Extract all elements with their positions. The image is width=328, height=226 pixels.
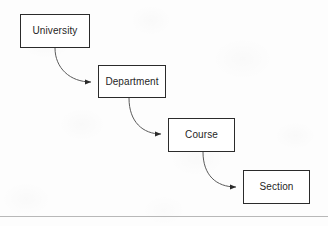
node-department[interactable]: Department xyxy=(98,65,166,98)
edge-university-department xyxy=(55,48,91,82)
node-course-label: Course xyxy=(185,130,218,140)
node-section[interactable]: Section xyxy=(243,170,310,204)
node-section-label: Section xyxy=(259,182,293,192)
node-course[interactable]: Course xyxy=(168,118,235,152)
node-university-label: University xyxy=(33,26,78,36)
footer-divider xyxy=(0,216,328,217)
edge-course-section xyxy=(203,152,236,187)
node-department-label: Department xyxy=(105,77,158,87)
node-university[interactable]: University xyxy=(20,14,90,48)
edge-department-course xyxy=(129,98,161,134)
